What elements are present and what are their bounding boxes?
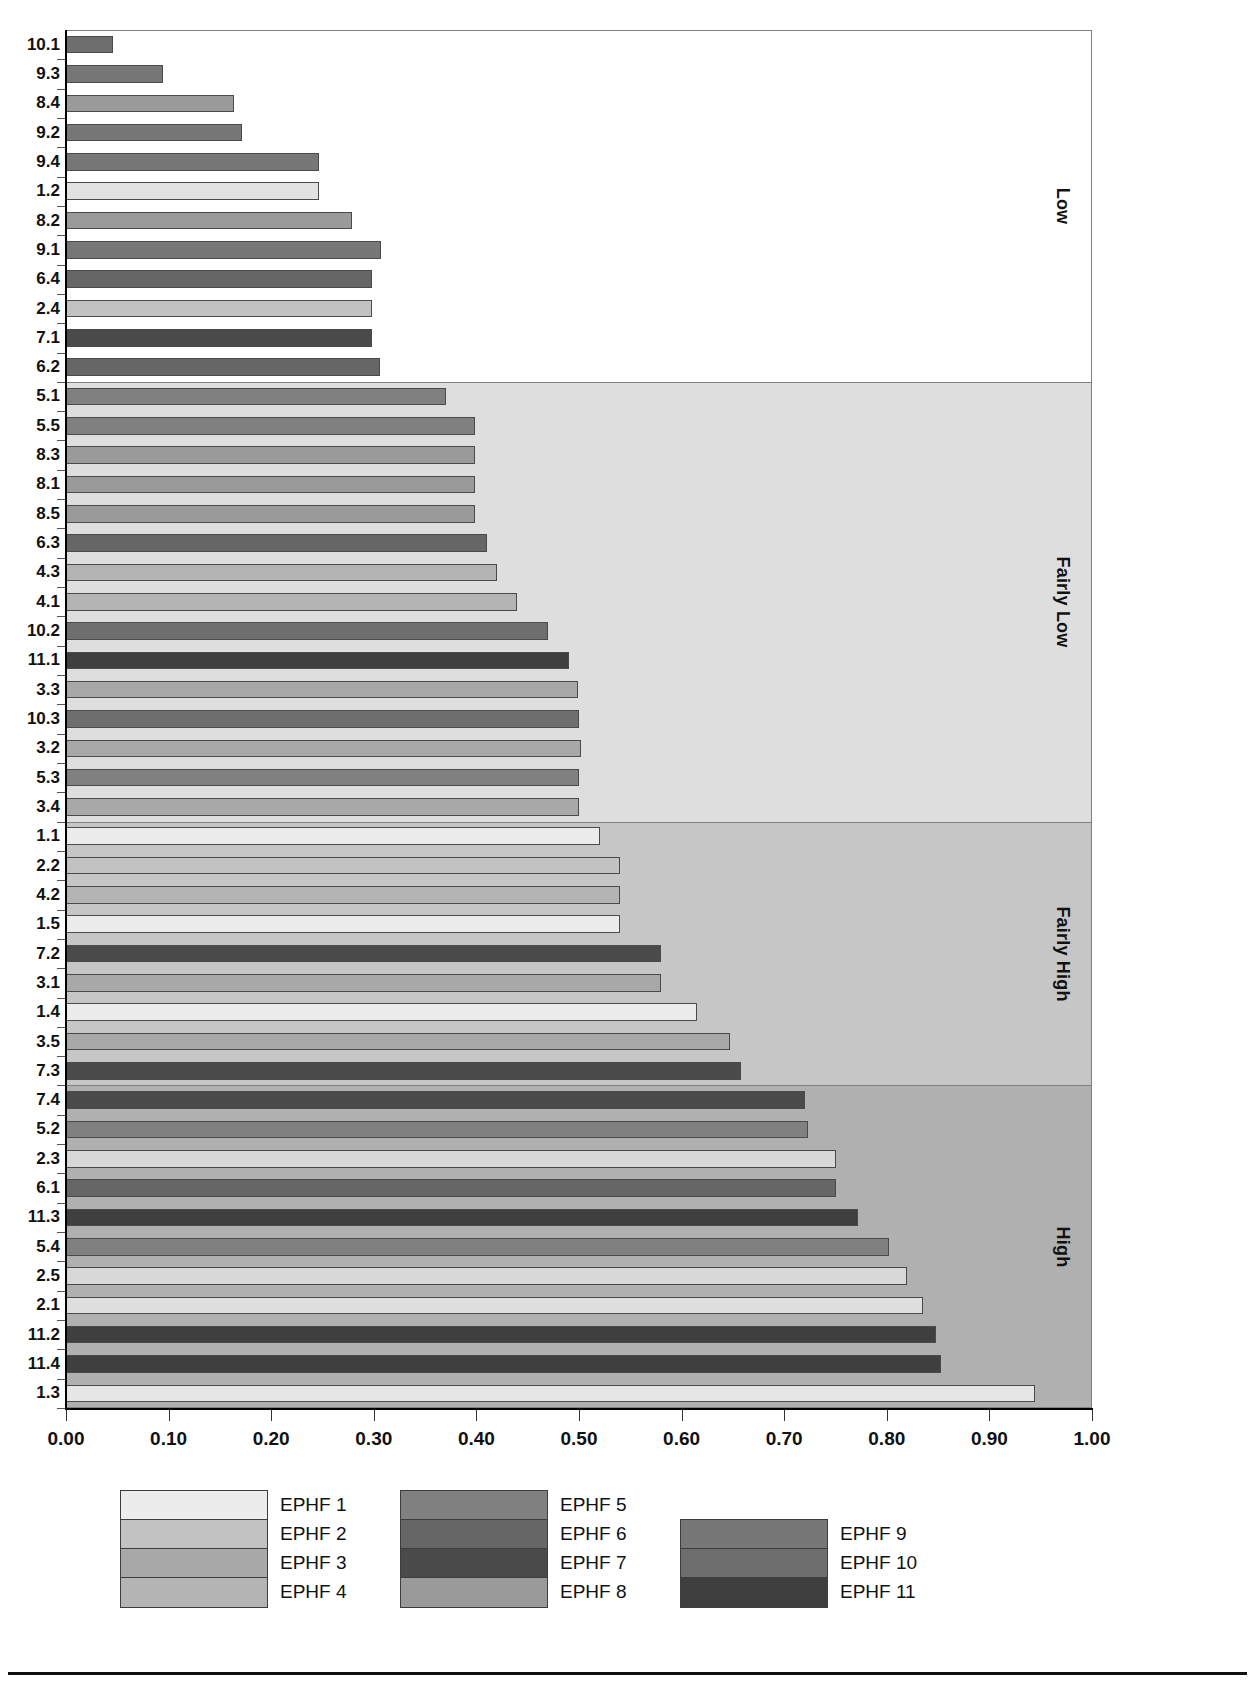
y-axis-label: 9.4 (2, 153, 60, 170)
bar-5.1 (66, 388, 446, 406)
x-axis-tick (66, 1410, 67, 1421)
y-axis-label: 9.3 (2, 65, 60, 82)
bar-row (66, 1033, 1092, 1051)
bar-1.5 (66, 915, 620, 933)
bar-2.5 (66, 1267, 907, 1285)
bar-8.2 (66, 212, 352, 230)
bar-1.3 (66, 1385, 1035, 1403)
y-axis-label: 11.1 (2, 651, 60, 668)
bar-row (66, 95, 1092, 113)
y-axis-label: 10.2 (2, 622, 60, 639)
chart-page: LowFairly LowFairly HighHigh 10.19.38.49… (0, 0, 1255, 1701)
legend-swatch (401, 1549, 547, 1578)
x-axis-tick (989, 1410, 990, 1421)
bar-row (66, 505, 1092, 523)
bar-row (66, 417, 1092, 435)
legend-swatch-stack (680, 1519, 828, 1608)
bar-row (66, 593, 1092, 611)
bar-4.1 (66, 593, 517, 611)
bar-4.3 (66, 564, 497, 582)
y-axis-label: 6.1 (2, 1179, 60, 1196)
bar-row (66, 1297, 1092, 1315)
x-axis-label: 1.00 (1052, 1428, 1132, 1450)
bar-row (66, 212, 1092, 230)
bar-row (66, 36, 1092, 54)
bar-row (66, 974, 1092, 992)
bar-11.1 (66, 652, 569, 670)
bar-row (66, 1385, 1092, 1403)
bar-row (66, 1326, 1092, 1344)
y-axis-label: 2.2 (2, 857, 60, 874)
y-axis-label: 6.3 (2, 534, 60, 551)
bar-row (66, 124, 1092, 142)
bar-7.2 (66, 945, 661, 963)
bar-6.4 (66, 270, 372, 288)
bar-row (66, 652, 1092, 670)
plot-area: LowFairly LowFairly HighHigh (66, 30, 1092, 1408)
legend-swatch (681, 1520, 827, 1549)
bar-row (66, 622, 1092, 640)
x-axis-tick (887, 1410, 888, 1421)
bar-row (66, 182, 1092, 200)
footer-rule (8, 1672, 1247, 1675)
y-axis-label: 7.4 (2, 1091, 60, 1108)
bar-row (66, 827, 1092, 845)
y-axis-label: 8.2 (2, 212, 60, 229)
bar-row (66, 329, 1092, 347)
x-axis-tick (476, 1410, 477, 1421)
y-axis-label: 8.5 (2, 505, 60, 522)
legend-label: EPHF 11 (840, 1577, 917, 1606)
y-axis-label: 11.3 (2, 1208, 60, 1225)
y-axis-label: 6.2 (2, 358, 60, 375)
y-axis-label: 3.4 (2, 798, 60, 815)
y-axis-label: 3.3 (2, 681, 60, 698)
y-axis-label: 11.4 (2, 1355, 60, 1372)
bar-8.3 (66, 446, 475, 464)
bar-row (66, 534, 1092, 552)
y-axis-label: 11.2 (2, 1326, 60, 1343)
bar-5.2 (66, 1121, 808, 1139)
y-axis-label: 4.1 (2, 593, 60, 610)
bar-9.1 (66, 241, 381, 259)
bar-3.5 (66, 1033, 730, 1051)
bar-2.2 (66, 857, 620, 875)
legend-label: EPHF 6 (560, 1519, 627, 1548)
legend-swatch (401, 1578, 547, 1607)
y-axis-label: 3.5 (2, 1033, 60, 1050)
legend-swatch (121, 1549, 267, 1578)
legend-label: EPHF 10 (840, 1548, 917, 1577)
bar-row (66, 915, 1092, 933)
bar-row (66, 886, 1092, 904)
bar-5.3 (66, 769, 579, 787)
y-axis-label: 5.1 (2, 387, 60, 404)
legend-label: EPHF 1 (280, 1490, 347, 1519)
legend-name-stack: EPHF 9EPHF 10EPHF 11 (840, 1519, 917, 1606)
x-axis-label: 0.40 (436, 1428, 516, 1450)
bar-10.3 (66, 710, 579, 728)
bar-10.2 (66, 622, 548, 640)
x-axis-label: 0.10 (129, 1428, 209, 1450)
bar-row (66, 270, 1092, 288)
bar-row (66, 1150, 1092, 1168)
y-axis-label: 5.5 (2, 417, 60, 434)
y-axis-label: 8.1 (2, 475, 60, 492)
y-axis-label: 1.4 (2, 1003, 60, 1020)
y-axis-label: 4.3 (2, 563, 60, 580)
legend-name-stack: EPHF 1EPHF 2EPHF 3EPHF 4 (280, 1490, 347, 1606)
bar-11.3 (66, 1209, 858, 1227)
y-axis-label: 5.4 (2, 1238, 60, 1255)
bar-6.2 (66, 358, 380, 376)
bar-3.3 (66, 681, 578, 699)
y-axis-label: 7.3 (2, 1062, 60, 1079)
legend-label: EPHF 9 (840, 1519, 917, 1548)
y-axis-label: 10.3 (2, 710, 60, 727)
y-axis-label: 2.1 (2, 1296, 60, 1313)
y-axis-label: 7.2 (2, 945, 60, 962)
bar-6.3 (66, 534, 487, 552)
bar-row (66, 1179, 1092, 1197)
bar-11.4 (66, 1355, 941, 1373)
chart-legend: EPHF 1EPHF 2EPHF 3EPHF 4EPHF 5EPHF 6EPHF… (0, 1490, 1255, 1640)
bar-8.4 (66, 95, 234, 113)
legend-label: EPHF 5 (560, 1490, 627, 1519)
bar-row (66, 769, 1092, 787)
